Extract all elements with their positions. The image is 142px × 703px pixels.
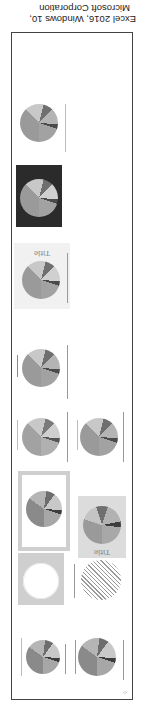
chart-style-thumbnail-9[interactable] <box>14 339 70 399</box>
legend-line <box>67 345 68 399</box>
gallery-corner-icon: ⁘ <box>121 688 128 696</box>
chart-styles-gallery: ⁘ Title <box>11 32 133 700</box>
chart-style-thumbnail-8[interactable] <box>14 410 70 466</box>
legend-line <box>17 355 18 377</box>
caption: Excel 2016, Windows 10, Microsoft Corpor… <box>6 3 136 25</box>
caption-line-1: Excel 2016, Windows 10, <box>6 14 136 25</box>
caption-line-2: Microsoft Corporation <box>6 3 136 14</box>
legend-line <box>65 104 66 152</box>
rotated-screenshot: Excel 2016, Windows 10, Microsoft Corpor… <box>0 0 142 703</box>
white-pie-icon <box>23 563 59 599</box>
legend-line <box>123 640 124 680</box>
chart-style-thumbnail-textured[interactable]: Title <box>14 243 70 309</box>
legend-line <box>65 644 66 674</box>
chart-style-thumbnail-7[interactable] <box>76 410 126 466</box>
legend-line <box>75 640 76 674</box>
legend-line <box>17 420 18 450</box>
pie-chart-icon <box>22 261 60 299</box>
legend-line <box>21 638 22 676</box>
pie-chart-icon <box>22 349 60 387</box>
legend-line <box>67 253 68 303</box>
pie-chart-icon <box>20 104 58 142</box>
pie-chart-icon <box>78 638 116 676</box>
chart-style-thumbnail-white-on-grey[interactable] <box>18 553 64 605</box>
chart-style-thumbnail-hatched[interactable] <box>71 554 127 604</box>
legend-line <box>123 412 124 462</box>
pie-chart-icon <box>80 418 118 456</box>
chart-style-thumbnail-12[interactable] <box>14 98 70 154</box>
chart-style-thumbnail-dark[interactable] <box>16 165 62 227</box>
legend-line <box>77 420 78 450</box>
chart-title: Title <box>34 249 50 257</box>
chart-style-thumbnail-titled[interactable]: Title <box>78 496 126 558</box>
chart-style-thumbnail-2[interactable] <box>16 632 68 684</box>
chart-style-thumbnail-1[interactable] <box>74 632 126 684</box>
hatched-pie-icon <box>81 560 121 600</box>
chart-style-thumbnail-framed[interactable] <box>18 471 70 551</box>
legend-line <box>74 564 75 598</box>
chart-title: Title <box>94 548 110 556</box>
legend-line <box>67 412 68 462</box>
pie-chart-icon <box>22 418 60 456</box>
pie-chart-icon <box>26 640 60 674</box>
pie-chart-icon <box>26 491 62 527</box>
pie-chart-icon <box>20 179 58 217</box>
pie-chart-icon <box>83 506 121 544</box>
